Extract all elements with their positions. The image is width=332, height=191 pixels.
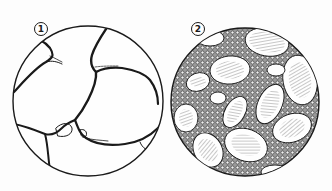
figure-drawing bbox=[0, 0, 332, 191]
panel-2-drawing bbox=[171, 24, 321, 179]
panel-1-drawing bbox=[13, 26, 164, 176]
histology-figure: 1 2 bbox=[0, 0, 332, 191]
panel-label-2: 2 bbox=[191, 22, 205, 36]
panel-label-1: 1 bbox=[34, 22, 48, 36]
